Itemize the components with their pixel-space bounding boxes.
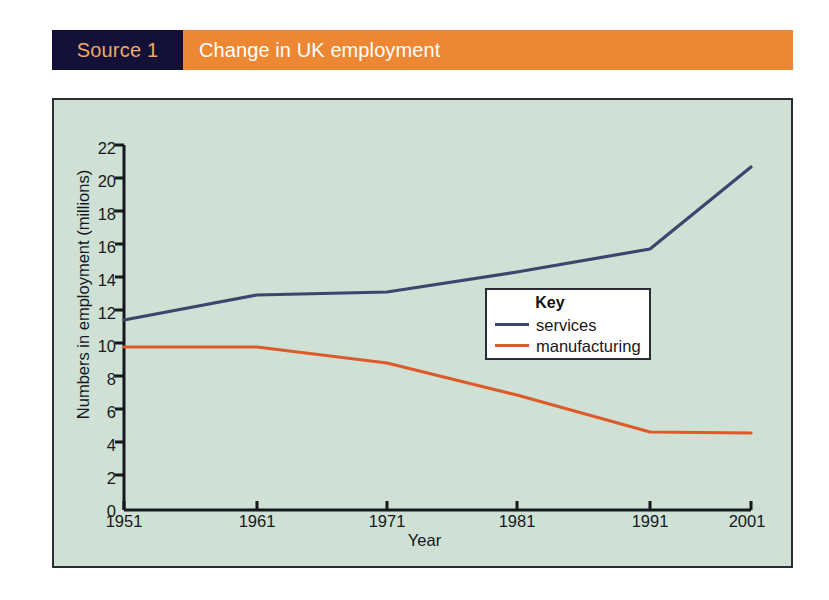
legend-swatch-manufacturing: [495, 344, 529, 347]
page-root: Source 1 Change in UK employment Numbers…: [0, 0, 829, 600]
legend-title: Key: [487, 294, 649, 312]
source-title-banner: Change in UK employment: [183, 30, 793, 70]
source-header-bar: Source 1 Change in UK employment: [52, 30, 793, 70]
legend-label-manufacturing: manufacturing: [536, 338, 641, 355]
series-line-services: [124, 167, 751, 320]
chart-panel: Numbers in employment (millions) Year 22…: [52, 98, 793, 568]
source-tag: Source 1: [52, 30, 183, 70]
legend-label-services: services: [536, 317, 597, 334]
series-line-manufacturing: [124, 347, 751, 433]
legend-swatch-services: [495, 323, 529, 326]
legend-item-manufacturing: manufacturing: [487, 335, 649, 356]
chart-plot-area: [54, 100, 795, 570]
source-title-label: Change in UK employment: [199, 40, 440, 60]
legend-item-services: services: [487, 314, 649, 335]
chart-legend: Key services manufacturing: [485, 288, 651, 360]
source-tag-label: Source 1: [77, 40, 159, 60]
